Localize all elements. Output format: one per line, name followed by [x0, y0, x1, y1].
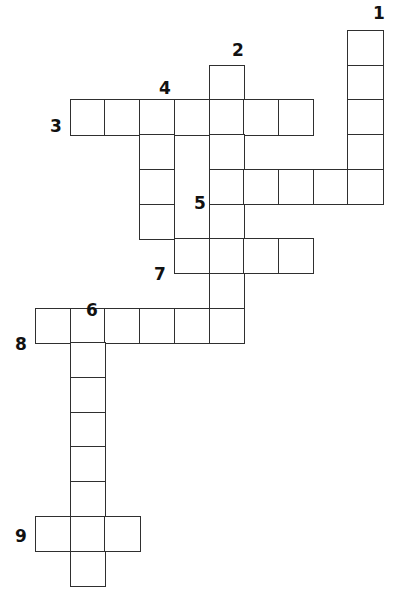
crossword-cell[interactable]: [174, 238, 210, 274]
crossword-cell[interactable]: [347, 30, 383, 66]
crossword-cell[interactable]: [104, 308, 140, 344]
crossword-cell[interactable]: [278, 238, 314, 274]
clue-number-5: 5: [190, 195, 210, 212]
crossword-cell[interactable]: [70, 551, 106, 587]
crossword-cell[interactable]: [347, 65, 383, 101]
clue-number-8: 8: [11, 336, 31, 353]
crossword-cell[interactable]: [209, 204, 245, 240]
crossword-cell[interactable]: [139, 134, 175, 170]
crossword-cell[interactable]: [139, 308, 175, 344]
crossword-cell[interactable]: [70, 377, 106, 413]
crossword-cell[interactable]: [174, 99, 210, 135]
crossword-cell[interactable]: [313, 169, 349, 205]
clue-number-1: 1: [369, 5, 389, 22]
clue-number-3: 3: [46, 118, 66, 135]
crossword-cell[interactable]: [209, 273, 245, 309]
crossword-cell[interactable]: [70, 99, 106, 135]
crossword-cell[interactable]: [278, 169, 314, 205]
crossword-cell[interactable]: [243, 238, 279, 274]
crossword-cell[interactable]: [209, 308, 245, 344]
crossword-cell[interactable]: [70, 516, 106, 552]
crossword-cell[interactable]: [104, 99, 140, 135]
crossword-cell[interactable]: [347, 99, 383, 135]
crossword-cell[interactable]: [347, 134, 383, 170]
crossword-cell[interactable]: [70, 446, 106, 482]
clue-number-7: 7: [150, 266, 170, 283]
crossword-cell[interactable]: [209, 134, 245, 170]
crossword-cell[interactable]: [209, 99, 245, 135]
crossword-cell[interactable]: [209, 65, 245, 101]
crossword-cell[interactable]: [70, 342, 106, 378]
crossword-grid: 123456789: [0, 0, 412, 593]
crossword-cell[interactable]: [209, 169, 245, 205]
crossword-cell[interactable]: [139, 169, 175, 205]
crossword-cell[interactable]: [139, 99, 175, 135]
crossword-cell[interactable]: [347, 169, 383, 205]
crossword-cell[interactable]: [35, 516, 71, 552]
clue-number-4: 4: [155, 80, 175, 97]
crossword-cell[interactable]: [139, 204, 175, 240]
crossword-cell[interactable]: [70, 412, 106, 448]
crossword-cell[interactable]: [104, 516, 140, 552]
clue-number-9: 9: [11, 528, 31, 545]
crossword-cell[interactable]: [70, 481, 106, 517]
crossword-cell[interactable]: [243, 99, 279, 135]
crossword-cell[interactable]: [35, 308, 71, 344]
crossword-cell[interactable]: [174, 308, 210, 344]
crossword-cell[interactable]: [209, 238, 245, 274]
clue-number-6: 6: [82, 302, 102, 319]
clue-number-2: 2: [228, 42, 248, 59]
crossword-cell[interactable]: [243, 169, 279, 205]
crossword-cell[interactable]: [278, 99, 314, 135]
